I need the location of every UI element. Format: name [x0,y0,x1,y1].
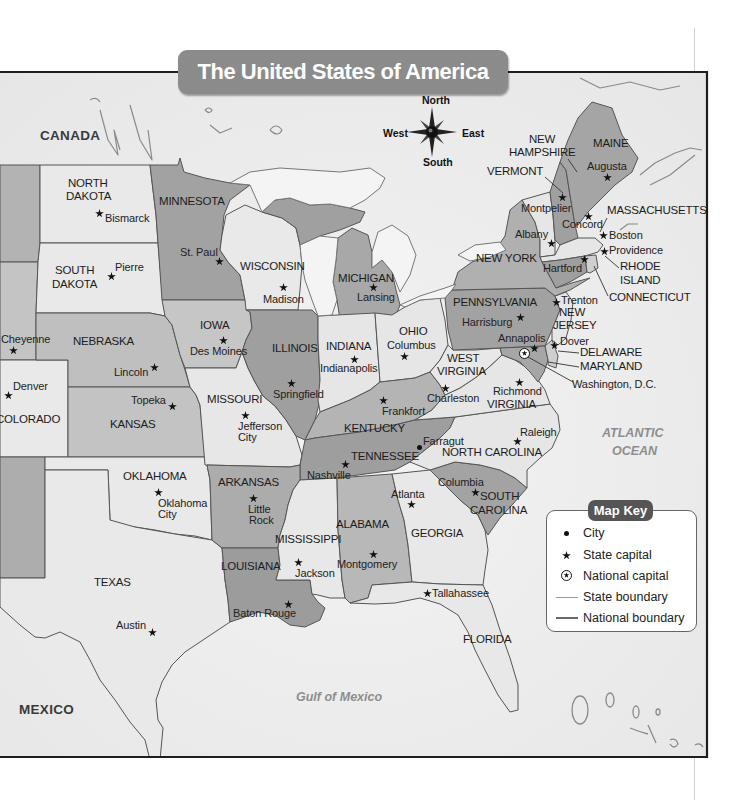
city-label-augusta: Augusta [587,161,627,172]
city-label-st-paul: St. Paul [180,247,218,258]
state-label-north-dakota: NORTH [68,178,108,190]
state-label-west-virginia: WEST [447,353,479,365]
state-shape-montana [0,165,40,262]
map-key-legend: City State capital National capital Stat… [546,510,697,632]
map-key-row-national-boundary: National boundary [547,609,696,627]
water-label-gulf-of-mexico: Gulf of Mexico [296,691,382,704]
state-label-maryland: MARYLAND [580,361,642,373]
map-title: The United States of America [198,59,489,85]
city-label-des-moines: Des Moines [190,346,247,357]
city-label-providence: Providence [609,245,663,256]
city-dot-icon [417,445,422,450]
state-label-indiana: INDIANA [326,341,371,353]
state-label-nebraska: NEBRASKA [73,336,134,348]
state-label-wisconsin: WISCONSIN [240,261,305,273]
city-label-nashville: Nashville [307,470,351,481]
city-label-topeka: Topeka [131,395,166,406]
state-label-michigan: MICHIGAN [338,273,394,285]
state-label-alabama: ALABAMA [336,519,389,531]
compass-south-label: South [423,157,453,168]
state-label-tennessee: TENNESSEE [351,451,419,463]
water-label-ocean: OCEAN [612,445,657,458]
city-label-montpelier: Montpelier [521,203,571,214]
compass-north-label: North [422,95,450,106]
state-label-south-dakota-line2: DAKOTA [52,279,97,291]
city-label-farragut: Farragut [423,436,464,447]
city-label-oklahoma-city-line2: City [158,509,177,520]
city-label-jackson: Jackson [295,568,335,579]
state-label-texas: TEXAS [94,577,131,589]
compass-west-label: West [383,128,408,139]
state-label-illinois: ILLINOIS [272,343,318,355]
water-label-atlantic: ATLANTIC [602,427,664,440]
state-label-kentucky: KENTUCKY [344,423,405,435]
thin-line-icon [556,597,578,598]
state-label-massachusetts: MASSACHUSETTS [607,205,707,217]
map-title-banner: The United States of America [178,50,508,94]
thick-line-icon [556,617,578,619]
city-label-pierre: Pierre [115,262,144,273]
state-label-georgia: GEORGIA [411,528,463,540]
city-label-albany: Albany [515,229,548,240]
state-label-south-carolina-line2: CAROLINA [470,505,527,517]
city-label-trenton: Trenton [561,295,598,306]
state-label-new-hampshire: NEW [529,134,555,146]
state-label-arkansas: ARKANSAS [218,477,279,489]
city-label-raleigh: Raleigh [520,427,557,438]
map-page: The United States of America North West … [0,0,738,800]
map-key-title: Map Key [588,500,653,521]
city-label-denver: Denver [13,381,48,392]
map-key-row-city: City [547,524,696,542]
city-label-dover: Dover [560,336,589,347]
state-label-new-jersey: NEW [559,307,585,319]
city-label-columbia: Columbia [438,477,484,488]
state-label-florida: FLORIDA [463,634,511,646]
city-label-concord: Concord [562,219,603,230]
state-label-delaware: DELAWARE [580,347,642,359]
state-label-minnesota: MINNESOTA [159,196,225,208]
city-label-austin: Austin [116,620,146,631]
city-label-springfield: Springfield [273,389,324,400]
state-label-iowa: IOWA [200,320,229,332]
us-map [0,0,738,800]
map-key-label-city: City [583,526,605,540]
circled-star-icon [561,570,572,581]
city-label-indianapolis: Indianapolis [320,363,378,374]
city-label-jefferson-city-line2: City [238,432,257,443]
map-key-row-state-capital: State capital [547,546,696,564]
state-label-rhode-island-line2: ISLAND [620,275,660,287]
star-icon [564,572,570,578]
state-label-colorado: COLORADO [0,414,60,426]
city-label-richmond: Richmond [493,386,542,397]
state-label-new-hampshire-line2: HAMPSHIRE [509,147,576,159]
city-label-montgomery: Montgomery [337,559,397,570]
national-capital-icon [519,348,530,359]
map-key-label-national-capital: National capital [583,569,668,583]
city-label-annapolis: Annapolis [498,333,545,344]
city-label-hartford: Hartford [543,263,582,274]
city-label-cheyenne: Cheyenne [1,334,50,345]
state-label-mississippi: MISSISSIPPI [275,534,341,546]
country-label-mexico: MEXICO [19,703,74,717]
city-label-frankfort: Frankfort [382,406,425,417]
state-label-south-carolina: SOUTH [480,491,519,503]
compass-east-label: East [462,128,484,139]
map-key-row-state-boundary: State boundary [547,588,696,606]
state-label-rhode-island: RHODE [620,261,661,273]
city-label-boston: Boston [609,230,643,241]
city-label-little-rock-line2: Rock [249,515,274,526]
state-label-new-jersey-line2: JERSEY [553,320,597,332]
state-shape-new-mexico [0,457,45,578]
state-label-west-virginia-line2: VIRGINIA [437,366,486,378]
state-label-maine: MAINE [593,138,628,150]
state-label-oklahoma: OKLAHOMA [123,471,187,483]
city-label-washington-dc: Washington, D.C. [572,379,656,390]
state-label-south-dakota: SOUTH [55,265,94,277]
state-shape-wyoming [0,262,38,360]
state-label-vermont: VERMONT [487,166,543,178]
country-label-canada: CANADA [40,129,100,143]
state-label-virginia: VIRGINIA [487,399,536,411]
state-label-louisiana: LOUISIANA [221,561,281,573]
city-label-baton-rouge: Baton Rouge [233,608,296,619]
state-label-missouri: MISSOURI [207,394,262,406]
